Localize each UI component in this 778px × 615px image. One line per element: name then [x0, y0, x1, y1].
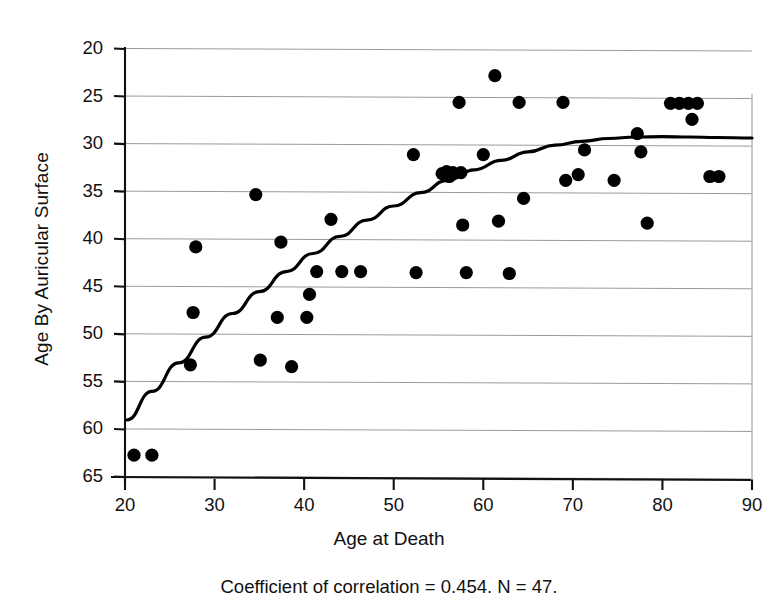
gridline-y-25	[125, 429, 752, 432]
x-tick-label-70: 70	[543, 496, 603, 515]
plot-canvas	[0, 0, 778, 615]
data-point	[631, 127, 644, 140]
data-point	[712, 170, 725, 183]
data-point	[517, 192, 530, 205]
y-tick-label-25: 60	[57, 419, 103, 438]
data-point	[634, 145, 647, 158]
data-point	[274, 236, 287, 249]
data-point	[608, 174, 621, 187]
data-point	[477, 148, 490, 161]
data-point	[324, 213, 337, 226]
data-point	[572, 168, 585, 181]
axes-group	[111, 47, 752, 482]
y-tick-45	[114, 239, 125, 240]
data-point	[285, 360, 298, 373]
data-point	[410, 266, 423, 279]
data-point	[456, 218, 469, 231]
data-point	[454, 166, 467, 179]
x-tick-label-40: 40	[274, 496, 334, 515]
gridline-y-65	[125, 49, 752, 52]
gridlines-group	[125, 49, 752, 480]
data-point	[685, 113, 698, 126]
data-point	[453, 96, 466, 109]
data-points-group	[127, 69, 725, 462]
y-tick-label-55: 30	[57, 134, 103, 153]
y-tick-65	[114, 49, 125, 50]
gridline-y-50	[125, 191, 752, 194]
y-tick-label-60: 25	[57, 87, 103, 106]
x-tick-label-50: 50	[364, 496, 424, 515]
y-tick-40	[114, 286, 125, 287]
data-point	[407, 148, 420, 161]
y-tick-35	[114, 334, 125, 335]
y-tick-label-20: 65	[57, 467, 103, 486]
data-point	[335, 265, 348, 278]
data-point	[503, 267, 516, 280]
y-tick-label-35: 50	[57, 324, 103, 343]
data-point	[249, 188, 262, 201]
data-point	[641, 217, 654, 230]
y-tick-label-40: 45	[57, 277, 103, 296]
y-axis-title: Age By Auricular Surface	[31, 49, 53, 469]
data-point	[310, 265, 323, 278]
data-point	[145, 449, 158, 462]
gridline-y-35	[125, 334, 752, 337]
y-tick-25	[114, 429, 125, 430]
x-tick-label-60: 60	[453, 496, 513, 515]
data-point	[254, 354, 267, 367]
y-tick-30	[114, 381, 125, 382]
x-tick-label-90: 90	[722, 496, 778, 515]
data-point	[556, 96, 569, 109]
data-point	[460, 266, 473, 279]
y-tick-label-50: 35	[57, 182, 103, 201]
gridline-y-60	[125, 96, 752, 99]
scatter-plot-figure: Age By Auricular Surface 656055504540353…	[0, 0, 778, 615]
data-point	[189, 240, 202, 253]
y-tick-label-65: 20	[57, 39, 103, 58]
data-point	[354, 265, 367, 278]
gridline-y-55	[125, 144, 752, 147]
y-tick-label-45: 40	[57, 229, 103, 248]
data-point	[303, 288, 316, 301]
y-tick-60	[114, 96, 125, 97]
x-tick-label-80: 80	[632, 496, 692, 515]
data-point	[513, 96, 526, 109]
figure-caption: Coefficient of correlation = 0.454. N = …	[0, 576, 778, 598]
gridline-y-30	[125, 381, 752, 384]
x-tick-label-30: 30	[185, 496, 245, 515]
data-point	[187, 306, 200, 319]
gridline-y-45	[125, 239, 752, 242]
data-point	[691, 97, 704, 110]
data-point	[488, 69, 501, 82]
data-point	[300, 311, 313, 324]
y-tick-55	[114, 144, 125, 145]
data-point	[127, 449, 140, 462]
y-tick-label-30: 55	[57, 372, 103, 391]
x-axis-spine	[111, 477, 752, 480]
x-axis-title: Age at Death	[0, 528, 778, 550]
data-point	[578, 143, 591, 156]
gridline-y-40	[125, 286, 752, 289]
y-tick-50	[114, 191, 125, 192]
x-tick-label-20: 20	[95, 496, 155, 515]
data-point	[492, 215, 505, 228]
data-point	[271, 311, 284, 324]
data-point	[184, 358, 197, 371]
tickmarks-group	[114, 49, 752, 491]
data-point	[559, 174, 572, 187]
